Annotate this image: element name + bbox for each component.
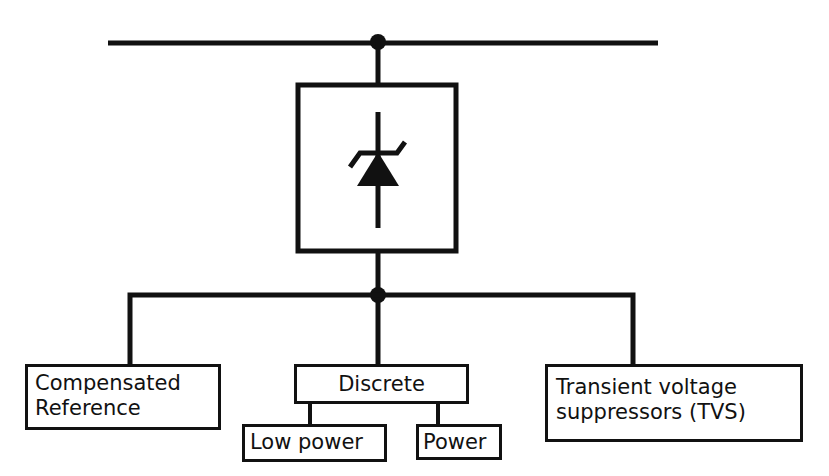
discrete-box: Discrete	[294, 364, 469, 404]
tvs-box: Transient voltage suppressors (TVS)	[545, 364, 803, 442]
compensated-reference-box: Compensated Reference	[25, 364, 221, 430]
compensated-reference-label-1: Compensated	[35, 371, 218, 396]
power-box: Power	[416, 424, 502, 460]
tvs-label-2: suppressors (TVS)	[556, 400, 800, 425]
low-power-box: Low power	[242, 424, 387, 462]
power-label: Power	[423, 430, 499, 455]
tvs-label-1: Transient voltage	[556, 375, 800, 400]
compensated-reference-label-2: Reference	[35, 396, 218, 421]
low-power-label: Low power	[250, 430, 384, 455]
discrete-label: Discrete	[297, 372, 466, 397]
